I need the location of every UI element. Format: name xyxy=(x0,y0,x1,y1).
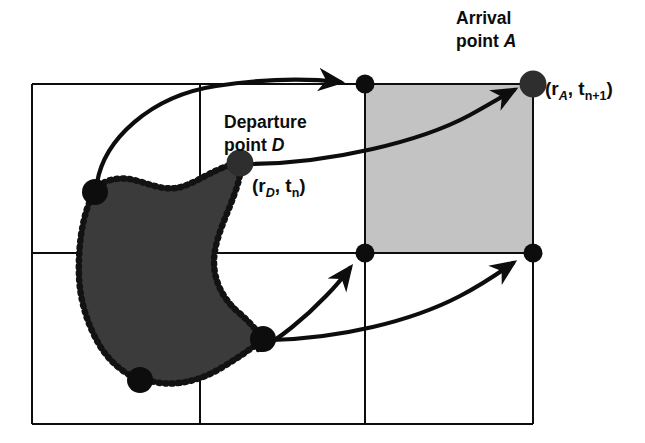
arrival-point-A-marker xyxy=(520,71,547,98)
departure-coord-open: (r xyxy=(252,175,266,196)
semi-lagrangian-diagram-canvas: Arrival point A (rA, tn+1) Departure poi… xyxy=(0,0,645,443)
highlight-cell xyxy=(365,84,533,253)
blob-vertex-right xyxy=(250,326,276,352)
arrival-coord-mid: , t xyxy=(568,78,586,99)
departure-label-prefix: point xyxy=(224,135,272,155)
diagram-figure: Arrival point A (rA, tn+1) Departure poi… xyxy=(0,0,645,443)
departure-coord-close: ) xyxy=(299,175,305,196)
arrival-coord-open: (r xyxy=(545,78,559,99)
arrival-coord-sub-space: A xyxy=(558,89,568,103)
departure-coord-sub-time: n xyxy=(292,186,300,200)
arrival-label-line2: point A xyxy=(456,31,516,51)
departure-label-line2: point D xyxy=(224,135,285,155)
departure-coord-mid: , t xyxy=(275,175,293,196)
arrival-label-symbol: A xyxy=(503,31,517,51)
arrival-coord-sub-time: n+1 xyxy=(585,89,607,103)
grid-node-center-right xyxy=(356,244,375,263)
blob-vertex-bottom-left xyxy=(127,367,153,393)
departure-coord-sub-space: D xyxy=(266,186,275,200)
arrival-label-line1: Arrival xyxy=(456,8,511,28)
departure-label-symbol: D xyxy=(272,135,285,155)
departure-label-line1: Departure xyxy=(224,112,307,132)
blob-vertex-left xyxy=(82,179,108,205)
grid-node-middle-right xyxy=(524,244,543,263)
arrival-label-prefix: point xyxy=(456,31,504,51)
arrival-coord-close: ) xyxy=(607,78,613,99)
grid-node-top-middle xyxy=(356,75,375,94)
